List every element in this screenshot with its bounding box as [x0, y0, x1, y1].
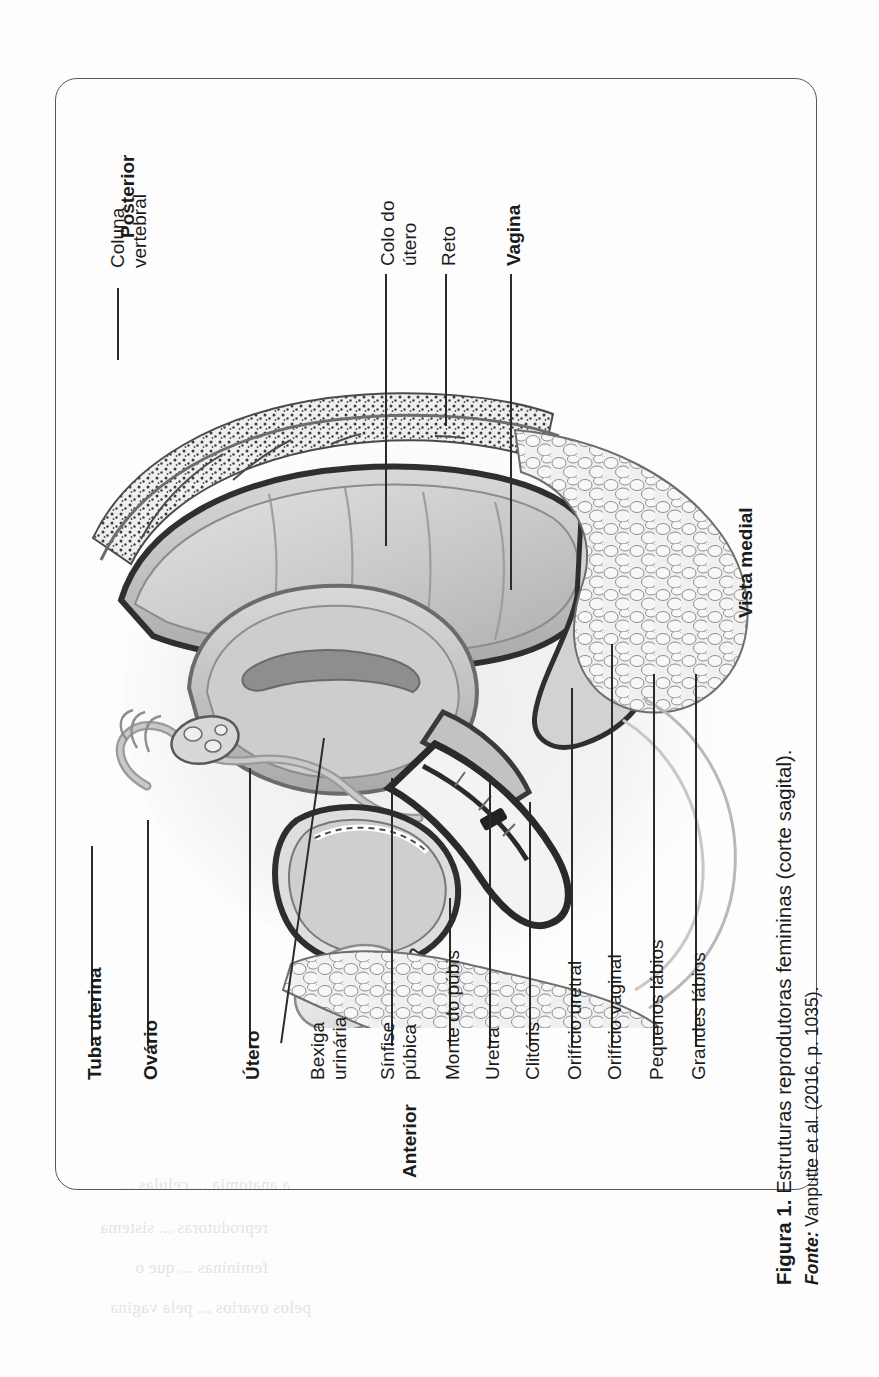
label-bexiga-urinaria-l2: urinária [329, 1017, 350, 1080]
label-uretra: Uretra [482, 1027, 503, 1080]
label-tuba-uterina-line1: Tuba uterina [84, 967, 105, 1080]
label-sinfise-pubica-line2: púbica [399, 1024, 420, 1080]
label-coluna-vertebral-line2: vertebral [129, 194, 151, 268]
label-coluna-vertebral-l2: vertebral [129, 194, 151, 268]
label-tuba-uterina: Tuba uterina [84, 967, 105, 1080]
label-monte-do-pubis: Monte do púbis [442, 950, 463, 1080]
label-pequenos-labios: Pequenos lábios [646, 940, 667, 1081]
label-colo-do-utero-l2: útero [399, 223, 420, 266]
page-background: a anatomia ... celulas ... reprodutoras … [0, 0, 879, 1377]
orientation-label-vista-medial: Vista medial [735, 507, 756, 618]
label-reto: Reto [438, 226, 459, 266]
label-grandes-labios-line1: Grandes lábios [688, 952, 709, 1080]
leader-line-reto [445, 274, 447, 426]
label-coluna-vertebral-line1: Coluna [107, 208, 129, 268]
label-vagina-line1: Vagina [503, 205, 524, 266]
anatomy-illustration-sagittal-section [83, 368, 783, 1028]
label-pequenos-labios-line1: Pequenos lábios [646, 940, 667, 1081]
label-utero: Útero [242, 1030, 263, 1080]
label-sinfise-pubica-l1: Sínfise [377, 1022, 398, 1080]
label-bexiga-urinaria-line1: Bexiga [307, 1022, 328, 1080]
label-orificio-vaginal-line1: Orifício vaginal [604, 954, 625, 1080]
label-bexiga-urinaria-line2: urinária [329, 1017, 350, 1080]
figure-source: Fonte: Vanputte et al. (2016, p. 1035). [802, 987, 823, 1285]
figure-source-text: Vanputte et al. (2016, p. 1035). [802, 987, 822, 1232]
figure-caption-text: Estruturas reprodutoras femininas (corte… [772, 750, 795, 1200]
leader-line-sinfise-pubica [391, 778, 393, 1046]
label-monte-do-pubis-line1: Monte do púbis [442, 950, 463, 1080]
label-orificio-vaginal: Orifício vaginal [604, 954, 625, 1080]
label-reto-line1: Reto [438, 226, 459, 266]
label-ovario: Ovário [140, 1020, 161, 1080]
bleedthrough-text: pelos ovarios ... pela vagina [110, 1298, 311, 1318]
leader-line-clitoris [529, 802, 531, 1046]
leader-line-vagina [510, 274, 512, 590]
figure-caption: Figura 1. Estruturas reprodutoras femini… [772, 750, 796, 1286]
bleedthrough-text: reprodutoras ... sistema [100, 1218, 268, 1238]
leader-line-ovario [147, 820, 149, 1046]
label-orificio-uretral-line1: Orifício uretral [564, 961, 585, 1080]
label-clitoris-line1: Clitóris [522, 1022, 543, 1080]
label-colo-do-utero-line1: Colo do [377, 201, 398, 267]
label-coluna-vertebral: Coluna [107, 208, 129, 268]
orientation-label-anterior: Anterior [399, 1104, 420, 1178]
label-sinfise-pubica-l2: púbica [399, 1024, 420, 1080]
label-vagina: Vagina [503, 205, 524, 266]
label-uretra-line1: Uretra [482, 1027, 503, 1080]
label-colo-do-utero-l1: Colo do [377, 201, 398, 267]
figure-caption-label: Figura 1. [772, 1200, 795, 1285]
label-bexiga-urinaria-l1: Bexiga [307, 1022, 328, 1080]
figure-source-label: Fonte: [802, 1232, 822, 1285]
label-clitoris: Clitóris [522, 1022, 543, 1080]
label-sinfise-pubica-line1: Sínfise [377, 1022, 398, 1080]
leader-line-colo-do-utero [385, 274, 387, 546]
label-colo-do-utero-line2: útero [399, 223, 420, 266]
leader-line-coluna-vertebral [117, 288, 119, 360]
label-grandes-labios: Grandes lábios [688, 952, 709, 1080]
leader-line-utero [249, 768, 251, 1046]
label-orificio-uretral: Orifício uretral [564, 961, 585, 1080]
figure-content: Posterior Coluna vertebral Colo do útero… [55, 78, 817, 1190]
label-utero-line1: Útero [242, 1030, 263, 1080]
label-ovario-line1: Ovário [140, 1020, 161, 1080]
bleedthrough-text: femininas ... que o [135, 1258, 268, 1278]
leader-line-uretra [489, 782, 491, 1046]
